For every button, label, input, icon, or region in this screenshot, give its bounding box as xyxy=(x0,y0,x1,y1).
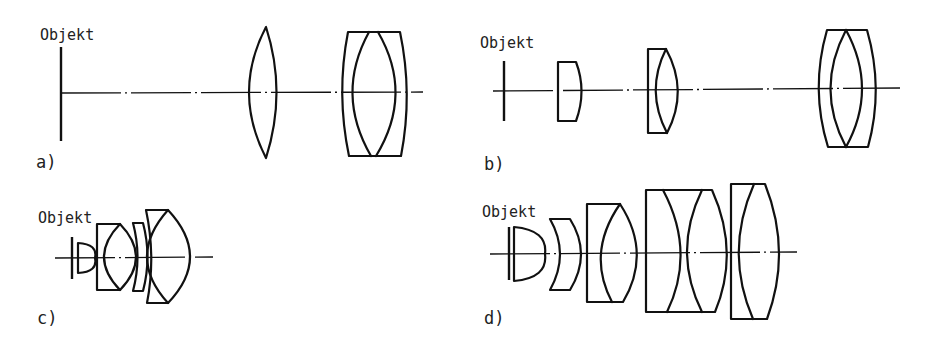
panel-label: c) xyxy=(37,308,57,328)
object-label: Objekt xyxy=(482,203,536,221)
optical-axis xyxy=(61,92,423,93)
panel-b: Objekt b) xyxy=(480,30,900,174)
panel-d: Objekt d) xyxy=(482,184,797,328)
optical-axis xyxy=(493,88,900,91)
panel-c: Objekt c) xyxy=(37,209,213,328)
cemented-doublet xyxy=(648,49,678,133)
cemented-doublet-pair xyxy=(646,190,727,312)
object-label: Objekt xyxy=(38,209,92,227)
cemented-triplet xyxy=(342,32,407,156)
panel-a: Objekt a) xyxy=(36,26,423,172)
cemented-doublet xyxy=(146,210,190,303)
cemented-doublet xyxy=(731,184,779,319)
object-label: Objekt xyxy=(40,26,94,44)
meniscus-lens xyxy=(550,219,581,290)
object-label: Objekt xyxy=(480,34,534,52)
plano-convex-lens xyxy=(558,62,582,121)
lens-systems-figure: Objekt a) Objekt b) Obj xyxy=(0,0,929,344)
optical-axis xyxy=(490,252,797,254)
panel-label: d) xyxy=(484,308,504,328)
panel-label: b) xyxy=(484,154,504,174)
panel-label: a) xyxy=(36,152,56,172)
